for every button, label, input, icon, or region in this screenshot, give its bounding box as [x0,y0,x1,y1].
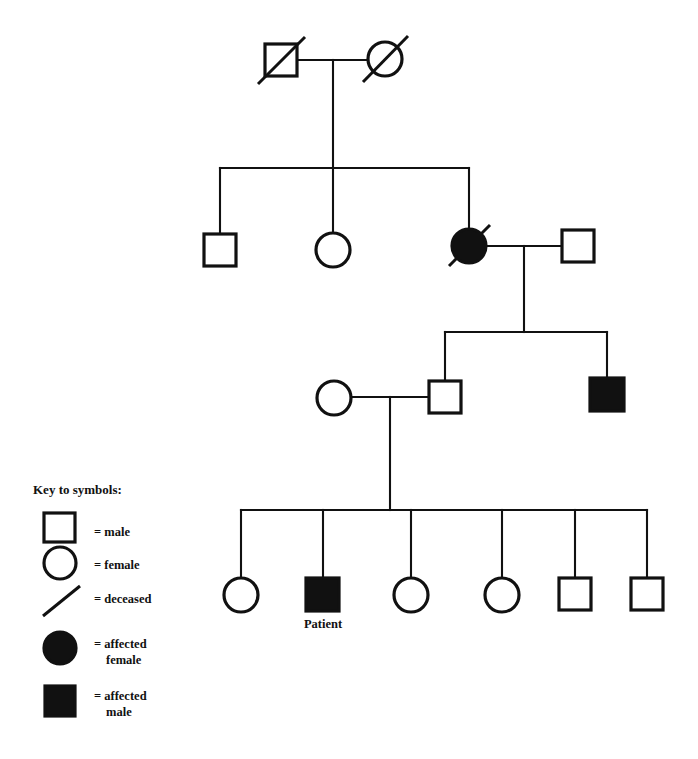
open-square [562,230,594,262]
open-circle [317,381,351,415]
open-circle [394,578,428,612]
legend-title: Key to symbols: [33,482,122,497]
legend: Key to symbols: = male = female = deceas… [33,482,152,719]
legend-item-affected-male: = affected male [45,686,147,719]
legend-item-male: = male [44,513,130,542]
individual-III-2-male[interactable] [429,381,461,413]
legend-item-affected-female: = affected female [44,632,147,667]
open-circle [224,578,258,612]
pedigree-chart: Patient Key to symbols: [0,0,698,759]
individual-I-1-deceased-male[interactable] [258,37,305,84]
individual-III-3-affected-male[interactable] [590,378,624,411]
open-square [429,381,461,413]
generation-3 [317,332,624,510]
individual-II-3-affected-deceased-female[interactable] [449,225,490,266]
legend-label-male: = male [94,525,130,539]
individual-II-1-male[interactable] [204,234,236,266]
open-circle [316,233,350,267]
generation-1 [258,36,408,168]
individual-IV-3-female[interactable] [394,578,428,612]
open-square [631,578,663,610]
open-square [559,578,591,610]
individual-IV-4-female[interactable] [485,578,519,612]
legend-item-female: = female [44,547,140,579]
individual-II-4-male[interactable] [562,230,594,262]
generation-2 [204,168,594,332]
individual-III-1-female[interactable] [317,381,351,415]
individual-I-2-deceased-female[interactable] [363,36,408,82]
filled-square [590,378,624,411]
legend-label-female: = female [94,558,140,572]
legend-item-deceased: = deceased [43,586,152,616]
individual-IV-6-male[interactable] [631,578,663,610]
legend-label-affected-female-line1: = affected [94,637,147,651]
open-square-icon [44,513,75,542]
filled-square-icon [45,686,75,716]
diagonal-line-icon [43,586,80,616]
generation-4: Patient [224,510,663,631]
open-circle-icon [44,547,76,579]
legend-label-affected-male-line2: male [106,705,132,719]
legend-label-deceased: = deceased [94,592,152,606]
open-circle [485,578,519,612]
filled-circle-icon [44,632,76,664]
patient-label: Patient [304,617,343,631]
individual-II-2-female[interactable] [316,233,350,267]
individual-IV-1-female[interactable] [224,578,258,612]
individual-IV-5-male[interactable] [559,578,591,610]
legend-label-affected-female-line2: female [106,653,142,667]
legend-label-affected-male-line1: = affected [94,689,147,703]
open-square [204,234,236,266]
individual-IV-2-affected-male-proband[interactable] [306,578,339,611]
filled-square [306,578,339,611]
pedigree-canvas: Patient Key to symbols: [0,0,698,759]
